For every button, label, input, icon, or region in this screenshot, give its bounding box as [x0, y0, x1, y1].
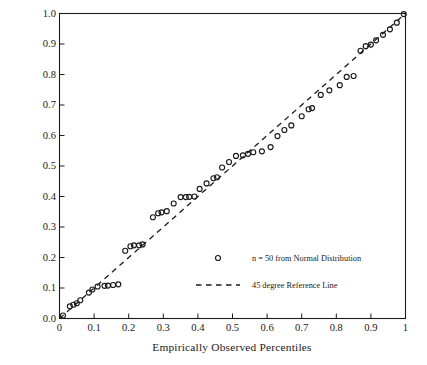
data-point — [204, 181, 209, 186]
data-point — [220, 165, 225, 170]
data-point — [178, 195, 183, 200]
y-tick-label-5: 0.5 — [30, 160, 56, 171]
data-point — [282, 128, 287, 133]
x-axis-label: Empirically Observed Percentiles — [59, 341, 405, 353]
data-point — [363, 44, 368, 49]
y-tick-label-2: 0.2 — [30, 252, 56, 263]
data-point — [275, 134, 280, 139]
x-tick-label-5: 0.5 — [218, 322, 248, 335]
data-point — [164, 209, 169, 214]
x-tick-label-0: 0 — [45, 322, 75, 335]
data-point — [251, 150, 256, 155]
data-point — [187, 194, 192, 199]
reference-line-45-degree — [60, 14, 406, 319]
reference-line — [60, 14, 406, 319]
x-tick-label-3: 0.3 — [148, 322, 178, 335]
x-tick-label-7: 0.7 — [287, 322, 317, 335]
legend-label-reference-line: 45 degree Reference Line — [252, 281, 338, 290]
y-tick-label-7: 0.7 — [30, 99, 56, 110]
x-tick-label-1: 0.1 — [79, 322, 109, 335]
legend-marker-open-circle — [216, 256, 221, 261]
x-tick-label-2: 0.2 — [114, 322, 144, 335]
data-point — [337, 83, 342, 88]
data-point — [327, 88, 332, 93]
data-point — [123, 248, 128, 253]
y-tick-label-9: 0.9 — [30, 38, 56, 49]
legend: n = 50 from Normal Distribution45 degree… — [196, 254, 362, 290]
data-point — [344, 74, 349, 79]
data-point — [351, 74, 356, 79]
plot-canvas: n = 50 from Normal Distribution45 degree… — [0, 0, 427, 365]
data-point — [233, 153, 238, 158]
legend-label-scatter: n = 50 from Normal Distribution — [252, 254, 362, 263]
x-tick-label-8: 0.8 — [321, 322, 351, 335]
data-point — [299, 114, 304, 119]
y-tick-label-8: 0.8 — [30, 69, 56, 80]
y-tick-label-1: 0.1 — [30, 282, 56, 293]
data-point — [78, 298, 83, 303]
data-point — [192, 194, 197, 199]
data-point — [150, 215, 155, 220]
y-tick-label-6: 0.6 — [30, 130, 56, 141]
data-point — [105, 283, 110, 288]
x-tick-label-10: 1 — [391, 322, 421, 335]
data-point — [111, 282, 116, 287]
data-point — [318, 92, 323, 97]
y-tick-label-3: 0.3 — [30, 221, 56, 232]
data-point — [171, 201, 176, 206]
data-point — [268, 145, 273, 150]
x-tick-label-4: 0.4 — [183, 322, 213, 335]
data-point — [197, 186, 202, 191]
data-point — [116, 282, 121, 287]
data-point — [394, 20, 399, 25]
x-tick-label-9: 0.9 — [356, 322, 386, 335]
x-tick-label-6: 0.6 — [252, 322, 282, 335]
y-tick-label-4: 0.4 — [30, 191, 56, 202]
y-tick-label-10: 1.0 — [30, 8, 56, 19]
data-point — [227, 160, 232, 165]
qq-plot-figure: Fitted Percentiles Based Upon a Normal D… — [0, 0, 427, 365]
data-point — [259, 149, 264, 154]
data-point — [289, 123, 294, 128]
